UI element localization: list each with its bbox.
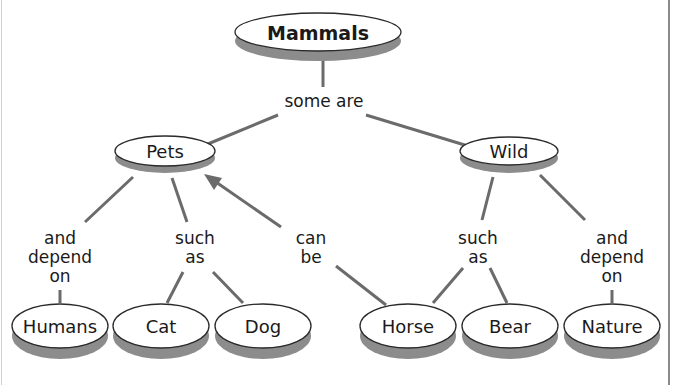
node-bear: Bear [462,304,558,359]
edge-suchas-bear [490,268,507,303]
svg-text:can: can [296,228,327,248]
svg-text:on: on [601,266,622,286]
svg-text:as: as [185,247,204,267]
node-label: Dog [245,316,281,337]
arrowhead-icon [204,174,222,190]
node-label: Mammals [267,22,369,44]
node-horse: Horse [360,304,456,359]
node-humans: Humans [12,304,108,359]
edge-someare-pets [203,115,278,146]
svg-text:depend: depend [28,247,92,267]
link-label-can-be: can be [296,228,327,267]
edge-wild-depend [540,175,585,220]
svg-text:on: on [49,266,70,286]
edge-pets-depend [85,177,133,222]
node-label: Pets [146,141,184,162]
svg-text:such: such [458,228,498,248]
edge-suchas-cat [167,272,183,303]
svg-text:and: and [44,228,76,248]
link-label-some-are: some are [284,91,363,111]
edge-someare-wild [366,115,468,146]
node-pets: Pets [115,136,215,173]
node-wild: Wild [460,137,558,173]
node-nature: Nature [564,304,660,359]
node-label: Nature [581,316,642,337]
node-mammals: Mammals [235,13,401,61]
node-label: Wild [490,141,529,162]
node-label: Cat [146,316,177,337]
edge-suchas-horse [433,268,463,303]
svg-text:and: and [596,228,628,248]
node-dog: Dog [215,304,311,359]
link-label-pets-suchas: such as [175,228,215,267]
node-label: Bear [489,316,531,337]
link-label-wild-suchas: such as [458,228,498,267]
edge-pets-suchas [172,178,187,222]
edge-horse-canbe [336,266,386,305]
link-label-pets-depend: and depend on [28,228,92,286]
svg-text:be: be [300,247,321,267]
svg-text:depend: depend [580,247,644,267]
edge-canbe-pets-arrow [213,180,281,227]
svg-text:such: such [175,228,215,248]
link-label-wild-depend: and depend on [580,228,644,286]
node-label: Humans [23,316,97,337]
node-cat: Cat [113,304,209,359]
edge-wild-suchas [482,177,493,220]
node-label: Horse [382,316,434,337]
concept-map: Mammals some are Pets Wild and depend on… [0,0,673,385]
edge-suchas-dog [213,272,243,303]
svg-text:as: as [468,247,487,267]
